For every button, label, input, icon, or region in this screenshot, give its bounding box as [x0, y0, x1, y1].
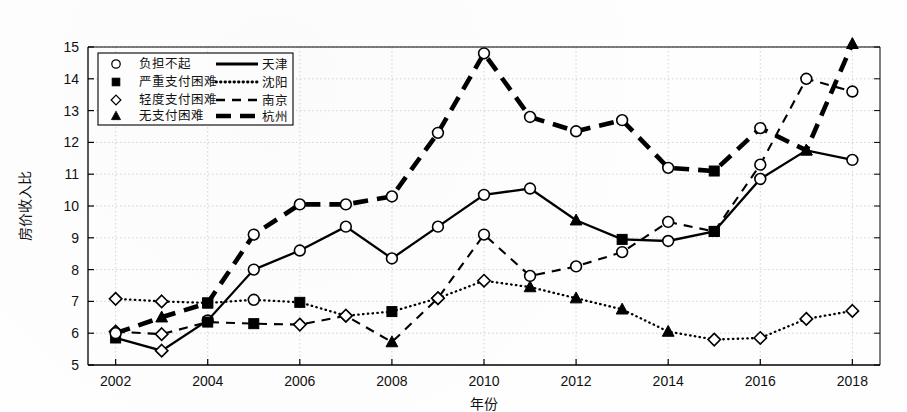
data-point-circle-open: [525, 112, 536, 123]
legend-city-label[interactable]: 天津: [262, 58, 288, 72]
data-point-diamond-open: [109, 293, 121, 305]
data-point-diamond-open: [846, 305, 858, 317]
data-point-circle-open: [248, 264, 259, 275]
circle-open-marker: [112, 60, 120, 68]
data-point-square-filled: [112, 78, 120, 86]
circle-open-marker: [571, 261, 582, 272]
diamond-open-marker: [155, 295, 167, 307]
tick-label-y: 10: [63, 198, 79, 214]
data-point-circle-open: [340, 199, 351, 210]
circle-open-marker: [248, 229, 259, 240]
circle-open-marker: [663, 236, 674, 247]
data-point-diamond-open: [155, 344, 167, 356]
diamond-open-marker: [846, 305, 858, 317]
data-point-circle-open: [663, 217, 674, 228]
data-point-circle-open: [433, 127, 444, 138]
data-point-circle-open: [663, 236, 674, 247]
circle-open-marker: [571, 126, 582, 137]
circle-open-marker: [479, 189, 490, 200]
data-point-circle-open: [294, 199, 305, 210]
tick-label-x: 2016: [745, 373, 776, 389]
square-filled-marker: [617, 234, 627, 244]
circle-open-marker: [479, 48, 490, 59]
data-point-diamond-open: [155, 295, 167, 307]
data-point-circle-open: [294, 245, 305, 256]
data-point-circle-open: [479, 229, 490, 240]
circle-open-marker: [755, 159, 766, 170]
triangle-filled-marker: [662, 325, 674, 336]
tick-label-y: 11: [64, 166, 79, 182]
square-filled-marker: [387, 307, 397, 317]
diamond-open-marker: [800, 313, 812, 325]
data-point-circle-open: [801, 73, 812, 84]
data-point-circle-open: [663, 162, 674, 173]
circle-open-marker: [479, 229, 490, 240]
square-filled-marker: [709, 226, 719, 236]
diamond-open-marker: [155, 328, 167, 340]
legend-city-label[interactable]: 杭州: [262, 109, 288, 124]
legend-marker-label[interactable]: 轻度支付困难: [139, 92, 217, 107]
tick-label-y: 6: [71, 325, 79, 341]
data-point-circle-open: [340, 221, 351, 232]
data-point-circle-open: [571, 126, 582, 137]
circle-open-marker: [801, 73, 812, 84]
tick-label-x: 2018: [837, 373, 868, 389]
circle-open-marker: [755, 123, 766, 134]
data-point-circle-open: [525, 183, 536, 194]
circle-open-marker: [525, 112, 536, 123]
data-point-square-filled: [203, 317, 213, 327]
data-point-diamond-open: [754, 332, 766, 344]
circle-open-marker: [433, 127, 444, 138]
legend-marker-label[interactable]: 负担不起: [139, 57, 191, 71]
legend-city-label[interactable]: 沈阳: [262, 75, 288, 90]
diamond-open-marker: [340, 310, 352, 322]
data-point-circle-open: [248, 294, 259, 305]
data-point-square-filled: [387, 307, 397, 317]
legend-marker-label[interactable]: 无支付困难: [139, 109, 204, 123]
diamond-open-marker: [478, 275, 490, 287]
circle-open-marker: [663, 217, 674, 228]
tick-label-x: 2004: [192, 373, 223, 389]
data-point-square-filled: [295, 297, 305, 307]
circle-open-marker: [755, 174, 766, 185]
legend-city-label[interactable]: 南京: [262, 93, 288, 108]
data-point-square-filled: [203, 298, 213, 308]
circle-open-marker: [525, 183, 536, 194]
legend-marker-label[interactable]: 严重支付困难: [139, 74, 217, 89]
data-point-circle-open: [525, 271, 536, 282]
diamond-open-marker: [708, 333, 720, 345]
data-point-circle-open: [847, 154, 858, 165]
circle-open-marker: [617, 247, 628, 258]
tick-label-y: 7: [71, 293, 79, 309]
tick-label-x: 2014: [653, 373, 684, 389]
series-line: [116, 281, 853, 340]
tick-label-y: 15: [63, 39, 79, 55]
data-point-circle-open: [110, 328, 121, 339]
diamond-open-marker: [754, 332, 766, 344]
tick-label-y: 8: [71, 262, 79, 278]
tick-label-x: 2008: [376, 373, 407, 389]
data-point-diamond-open: [340, 310, 352, 322]
chart-figure: 5678910111213141520022004200620082010201…: [0, 0, 907, 412]
data-point-circle-open: [479, 48, 490, 59]
square-filled-marker: [249, 319, 259, 329]
data-point-circle-open: [479, 189, 490, 200]
data-point-circle-open: [112, 60, 120, 68]
axis-title-x: 年份: [470, 396, 498, 412]
tick-label-y: 14: [63, 71, 79, 87]
circle-open-marker: [387, 253, 398, 264]
tick-label-y: 13: [63, 103, 79, 119]
circle-open-marker: [847, 86, 858, 97]
tick-label-x: 2012: [561, 373, 592, 389]
square-filled-marker: [112, 78, 120, 86]
circle-open-marker: [110, 328, 121, 339]
data-point-diamond-open: [155, 328, 167, 340]
data-point-triangle-filled: [846, 38, 858, 49]
legend[interactable]: 负担不起严重支付困难轻度支付困难无支付困难天津沈阳南京杭州: [98, 53, 293, 125]
tick-label-y: 9: [71, 230, 79, 246]
circle-open-marker: [525, 271, 536, 282]
data-point-circle-open: [248, 229, 259, 240]
data-point-circle-open: [617, 115, 628, 126]
data-point-circle-open: [755, 123, 766, 134]
triangle-filled-marker: [570, 214, 582, 225]
